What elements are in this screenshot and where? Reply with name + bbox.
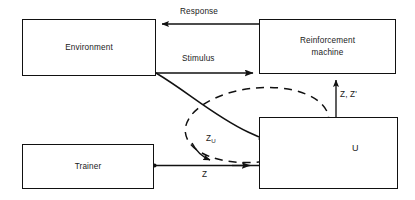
node-reinforcement-machine-label: Reinforcement machine — [300, 35, 355, 57]
node-u-block-label: U — [352, 142, 359, 154]
node-trainer[interactable]: Trainer — [22, 144, 154, 189]
node-environment[interactable]: Environment — [22, 19, 156, 76]
edge-label-stimulus: Stimulus — [182, 54, 215, 63]
node-trainer-label: Trainer — [75, 161, 102, 172]
node-reinforcement-machine[interactable]: Reinforcement machine — [259, 19, 396, 74]
diagram-canvas: Environment Reinforcement machine Traine… — [0, 0, 415, 200]
node-environment-label: Environment — [65, 42, 113, 53]
edge-label-z-zprime: Z, Z' — [340, 90, 357, 99]
node-u-block[interactable]: U — [259, 117, 398, 189]
edge-label-zu-loop: ZU — [206, 134, 216, 144]
edge-label-response: Response — [180, 7, 218, 16]
edge-label-zu-subscript: U — [211, 137, 216, 144]
edge-label-z-trainer: Z — [202, 170, 207, 179]
